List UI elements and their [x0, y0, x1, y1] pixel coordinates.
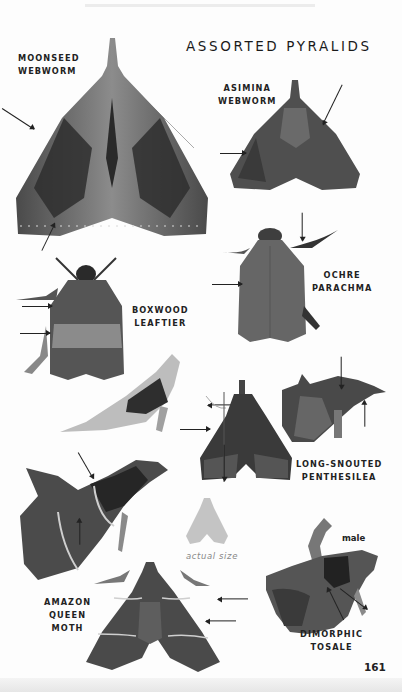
arrow-amazon-4	[206, 620, 236, 621]
arrow-amazon-3	[218, 598, 248, 599]
moth-image-long-snouted-penthesilea-side	[56, 352, 186, 436]
moth-image-amazon-queen-moth-dorsal	[84, 562, 224, 672]
arrow-ochre-1	[301, 213, 302, 241]
arrow-penthesilea-4	[364, 401, 365, 427]
page-bottom-edge	[0, 678, 402, 692]
label-amazon-queen-moth: AMAZON QUEEN MOTH	[44, 596, 91, 635]
label-long-snouted-penthesilea: LONG-SNOUTED PENTHESILEA	[296, 458, 382, 484]
moth-image-long-snouted-penthesilea-side-2	[278, 366, 390, 446]
moth-image-moonseed-webworm	[14, 38, 210, 244]
arrow-penthesilea-5	[223, 445, 224, 481]
label-dimorphic-tosale: DIMORPHIC TOSALE	[300, 628, 363, 654]
actual-size-silhouette	[184, 496, 230, 546]
arrow-boxwood-1	[22, 306, 52, 307]
arrow-amazon-2	[79, 519, 80, 545]
label-boxwood-leaftier: BOXWOOD LEAFTIER	[132, 304, 189, 330]
actual-size-caption: actual size	[186, 551, 238, 561]
previous-page-bleed	[85, 4, 315, 7]
page-title: ASSORTED PYRALIDS	[186, 38, 372, 54]
label-ochre-parachma: OCHRE PARACHMA	[312, 269, 372, 295]
moth-image-dimorphic-tosale	[262, 516, 382, 636]
arrow-boxwood-2	[20, 333, 50, 334]
arrow-penthesilea-3	[340, 357, 341, 389]
moth-image-asimina-webworm	[226, 78, 366, 198]
arrow-asimina-2	[220, 153, 246, 154]
arrow-penthesilea-2	[180, 429, 210, 430]
page-number: 161	[364, 661, 386, 673]
arrow-ochre-2	[212, 284, 242, 285]
